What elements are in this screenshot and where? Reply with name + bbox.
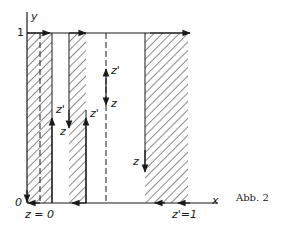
label-strip1-z-prime: z' — [56, 104, 65, 115]
label-strip2-z-prime: z' — [90, 108, 99, 119]
bottom-label-z-equals-0: z = 0 — [25, 209, 54, 220]
label-strip1-z: z — [60, 126, 66, 137]
y-axis-label: y — [31, 11, 38, 22]
label-center-z: z — [111, 98, 117, 109]
hatched-strip-middle — [69, 33, 86, 203]
origin-label: 0 — [15, 197, 22, 208]
label-center-z-prime: z' — [111, 65, 120, 76]
label-right-z: z — [133, 156, 139, 167]
y-tick-label-1: 1 — [17, 27, 24, 38]
hatched-strip-right — [145, 33, 188, 203]
x-axis-label: x — [212, 195, 219, 206]
bottom-label-z-prime-equals-1: z'=1 — [172, 209, 197, 220]
diagram-figure: y 1 0 x z = 0 z'=1 z' z z z' z' z z Abb.… — [0, 0, 281, 225]
figure-caption: Abb. 2 — [236, 193, 269, 203]
